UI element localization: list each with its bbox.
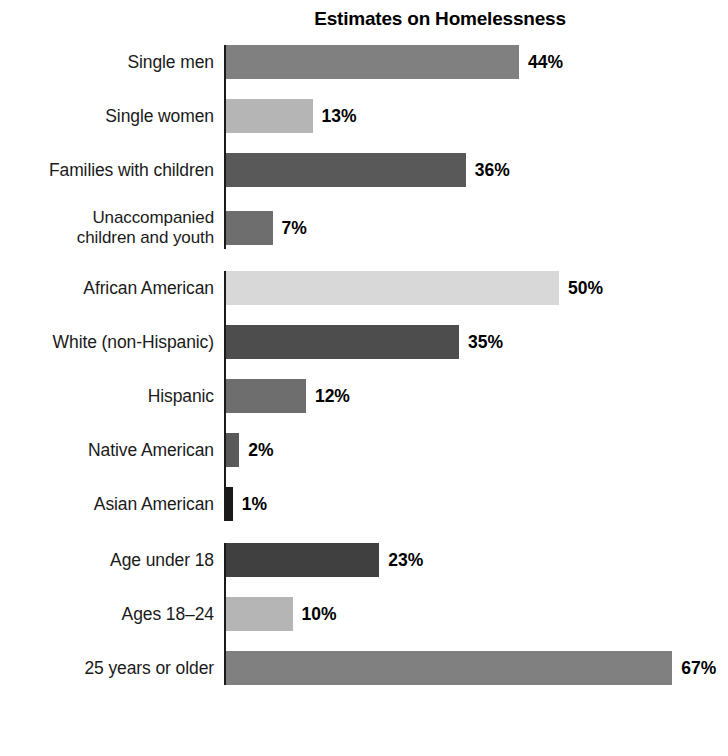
bar-track: 2% — [226, 433, 274, 467]
bar-fill[interactable] — [226, 271, 559, 305]
bar-track: 36% — [226, 153, 510, 187]
bar-row[interactable]: Families with children36% — [0, 153, 728, 187]
bar-row-label: African American — [0, 278, 214, 299]
bar-track: 67% — [226, 651, 716, 685]
chart-root: Estimates on Homelessness Single men44%S… — [0, 0, 728, 756]
bar-fill[interactable] — [226, 325, 459, 359]
bar-fill[interactable] — [226, 153, 466, 187]
bar-row[interactable]: Single women13% — [0, 99, 728, 133]
bar-row-label: Asian American — [0, 494, 214, 515]
bar-row[interactable]: Ages 18–2410% — [0, 597, 728, 631]
bar-fill[interactable] — [226, 99, 313, 133]
bar-row[interactable]: Hispanic12% — [0, 379, 728, 413]
bar-row-label: Age under 18 — [0, 550, 214, 571]
bar-track: 44% — [226, 45, 563, 79]
bar-row-label: Single men — [0, 52, 214, 73]
chart-title: Estimates on Homelessness — [225, 8, 655, 30]
bar-row-label: Native American — [0, 440, 214, 461]
bar-value-label: 67% — [681, 658, 716, 679]
bar-value-label: 44% — [528, 52, 563, 73]
bar-track: 1% — [226, 487, 267, 521]
bar-track: 35% — [226, 325, 503, 359]
bar-row[interactable]: Asian American1% — [0, 487, 728, 521]
bar-fill[interactable] — [226, 211, 273, 245]
bar-track: 7% — [226, 207, 307, 249]
bar-track: 23% — [226, 543, 423, 577]
bar-fill[interactable] — [226, 487, 233, 521]
bar-row[interactable]: Single men44% — [0, 45, 728, 79]
bar-track: 13% — [226, 99, 357, 133]
bar-row-label-line2: children and youth — [77, 228, 214, 247]
bar-fill[interactable] — [226, 45, 519, 79]
bar-row[interactable]: Unaccompaniedchildren and youth7% — [0, 207, 728, 249]
bar-value-label: 35% — [468, 332, 503, 353]
bar-fill[interactable] — [226, 651, 672, 685]
bar-value-label: 13% — [322, 106, 357, 127]
bar-value-label: 23% — [388, 550, 423, 571]
bar-row[interactable]: African American50% — [0, 271, 728, 305]
bar-value-label: 1% — [242, 494, 267, 515]
bar-value-label: 50% — [568, 278, 603, 299]
bar-row[interactable]: Age under 1823% — [0, 543, 728, 577]
bar-row-label: Ages 18–24 — [0, 604, 214, 625]
bar-group-race-ethnicity: African American50%White (non-Hispanic)3… — [0, 271, 728, 521]
bar-row-label: Families with children — [0, 160, 214, 181]
bar-row[interactable]: Native American2% — [0, 433, 728, 467]
bar-value-label: 2% — [248, 440, 273, 461]
bar-value-label: 7% — [282, 218, 307, 239]
bar-fill[interactable] — [226, 543, 379, 577]
bar-group-household-composition: Single men44%Single women13%Families wit… — [0, 45, 728, 249]
bar-track: 10% — [226, 597, 337, 631]
bar-group-age: Age under 1823%Ages 18–2410%25 years or … — [0, 543, 728, 685]
bar-value-label: 36% — [475, 160, 510, 181]
bar-row-label: 25 years or older — [0, 658, 214, 679]
plot-area: Single men44%Single women13%Families wit… — [0, 45, 728, 745]
bar-track: 12% — [226, 379, 350, 413]
bar-row-label: Single women — [0, 106, 214, 127]
bar-fill[interactable] — [226, 597, 293, 631]
bar-row-label: Unaccompaniedchildren and youth — [0, 208, 214, 248]
bar-value-label: 10% — [302, 604, 337, 625]
bar-row-label: Hispanic — [0, 386, 214, 407]
bar-fill[interactable] — [226, 433, 239, 467]
bar-fill[interactable] — [226, 379, 306, 413]
bar-value-label: 12% — [315, 386, 350, 407]
bar-row-label: White (non-Hispanic) — [0, 332, 214, 353]
bar-track: 50% — [226, 271, 603, 305]
bar-row[interactable]: 25 years or older67% — [0, 651, 728, 685]
bar-row[interactable]: White (non-Hispanic)35% — [0, 325, 728, 359]
